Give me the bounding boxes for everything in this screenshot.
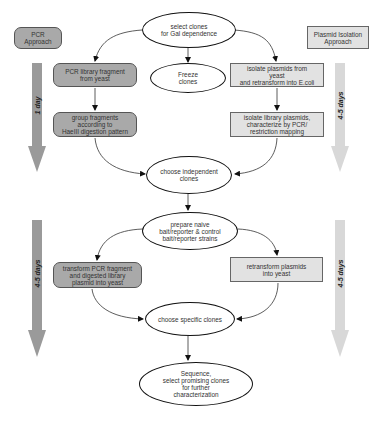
node-isolate-plasmids: isolate plasmids from yeast and retransf…: [230, 63, 324, 87]
node-prepare-naive-strains: prepare naive bait/reporter & control ba…: [142, 212, 238, 250]
node-retransform-plasmids: retransform plasmids into yeast: [230, 257, 323, 282]
node-choose-specific-clones: choose specific clones: [145, 302, 235, 336]
node-pcr-library-fragment: PCR library fragment from yeast: [53, 63, 137, 87]
pcr-approach-label: PCR Approach: [14, 27, 62, 49]
node-sequence-select-clones: Sequence, select promising clones for fu…: [139, 362, 253, 406]
timeline-left-top-label: 1 day: [34, 91, 41, 121]
node-select-clones: select clones for Gal dependence: [142, 12, 236, 48]
timeline-right-top-label: 4-5 days: [337, 86, 344, 126]
timeline-left-bottom-label: 4-5 days: [34, 254, 41, 294]
node-isolate-library-plasmids: isolate library plasmids, characterize b…: [230, 112, 324, 137]
node-transform-pcr-fragment: transform PCR fragment and digested libr…: [53, 262, 142, 288]
plasmid-isolation-approach-label: Plasmid Isolation Approach: [307, 26, 369, 49]
node-group-fragments: group fragments according to HaeIII dige…: [53, 112, 137, 137]
node-freeze-clones: Freeze clones: [150, 63, 226, 93]
node-choose-independent-clones: choose independent clones: [146, 156, 232, 194]
timeline-right-bottom-label: 4-5 days: [337, 254, 344, 294]
